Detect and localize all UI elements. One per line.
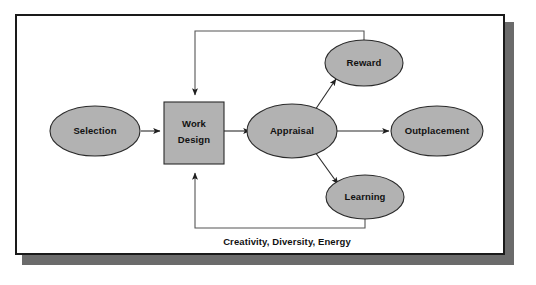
node-outplacement[interactable]: Outplacement [391, 106, 483, 156]
node-work-design[interactable]: Work Design [164, 102, 224, 164]
learning-label: Learning [345, 191, 386, 202]
work-design-label-line2: Design [178, 134, 210, 145]
appraisal-label: Appraisal [270, 125, 314, 136]
reward-label: Reward [347, 57, 382, 68]
node-appraisal[interactable]: Appraisal [247, 104, 337, 158]
figure-root: Selection Work Design Appraisal Reward O… [0, 0, 536, 285]
outplacement-label: Outplacement [405, 125, 470, 136]
selection-label: Selection [73, 125, 116, 136]
edge-appraisal-to-learning [315, 152, 338, 184]
diagram-caption: Creativity, Diversity, Energy [223, 236, 351, 247]
node-selection[interactable]: Selection [50, 106, 140, 156]
diagram-canvas: Selection Work Design Appraisal Reward O… [0, 0, 536, 285]
node-reward[interactable]: Reward [325, 40, 403, 86]
work-design-label-line1: Work [182, 118, 207, 129]
node-learning[interactable]: Learning [326, 175, 404, 219]
